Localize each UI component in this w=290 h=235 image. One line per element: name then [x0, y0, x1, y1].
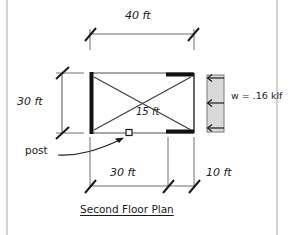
post-leader-group [58, 138, 124, 156]
building-outline [90, 72, 194, 136]
left-dimension-label: 30 ft [17, 96, 43, 107]
distributed-load-group [207, 75, 224, 133]
page-border [7, 0, 277, 235]
floor-plan-svg [0, 0, 290, 235]
distributed-load-label: w = .16 klf [231, 91, 282, 101]
bottom-right-dimension-label: 10 ft [206, 167, 232, 178]
left-dimension-group [56, 67, 84, 139]
post-marker-square-icon [126, 130, 132, 136]
bottom-left-dimension-label: 30 ft [110, 167, 136, 178]
diagonal-dimension-label: 15 ft [136, 107, 159, 117]
bottom-dimension-group [85, 137, 200, 193]
top-dimension-label: 40 ft [125, 10, 151, 21]
post-label: post [25, 145, 48, 156]
drawing-title: Second Floor Plan [80, 204, 174, 215]
post-leader-arrowhead-icon [115, 138, 124, 144]
floor-plan-drawing: 40 ft 30 ft 15 ft w = .16 klf post 30 ft… [0, 0, 290, 235]
top-dimension-group [85, 28, 199, 50]
